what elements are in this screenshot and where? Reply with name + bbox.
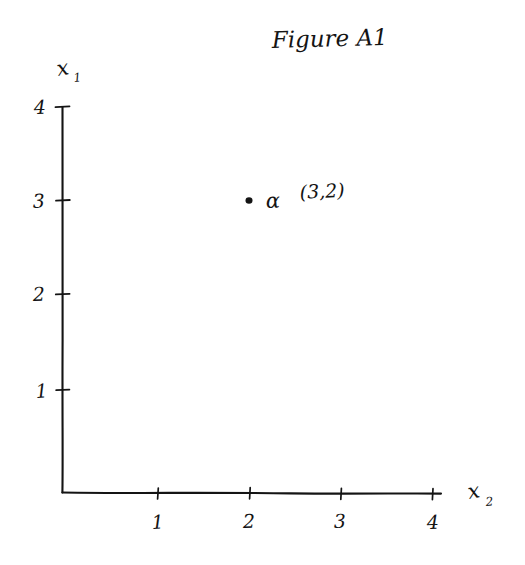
data-point-alpha [246, 197, 253, 203]
y-axis-label-subscript: 1 [73, 70, 82, 85]
x-tick-label-4: 4 [425, 511, 439, 533]
x-tick-mark-3 [341, 488, 342, 499]
data-point-symbol-label: α [265, 189, 280, 213]
data-point-coords-label: (3,2) [299, 179, 345, 203]
x-axis-label: x 2 [466, 478, 494, 509]
x-tick-mark-4 [432, 489, 433, 500]
x-tick-mark-2 [250, 488, 251, 499]
y-tick-mark-3 [56, 200, 70, 201]
y-tick-label-2: 2 [31, 283, 45, 305]
x-tick-label-2: 2 [242, 510, 255, 532]
y-axis-label: x 1 [55, 55, 82, 85]
y-tick-mark-2 [56, 294, 70, 295]
y-tick-mark-1 [56, 390, 69, 391]
y-tick-mark-4 [56, 106, 70, 107]
figure-page: Figure A1 4 3 2 1 1 2 3 4 x 1 x [0, 0, 525, 565]
figure-title: Figure A1 [270, 24, 388, 53]
handdrawn-scatter-plot: Figure A1 4 3 2 1 1 2 3 4 x 1 x [0, 0, 525, 565]
x-axis-line [62, 493, 441, 494]
y-axis-label-base: x [55, 55, 71, 81]
y-tick-label-1: 1 [35, 379, 49, 402]
y-tick-label-4: 4 [32, 96, 46, 118]
y-tick-label-3: 3 [32, 189, 45, 212]
x-tick-label-3: 3 [333, 510, 346, 532]
x-tick-label-1: 1 [151, 510, 164, 533]
x-axis-label-subscript: 2 [484, 494, 494, 509]
x-tick-mark-1 [158, 488, 159, 499]
x-axis-label-base: x [466, 478, 482, 504]
